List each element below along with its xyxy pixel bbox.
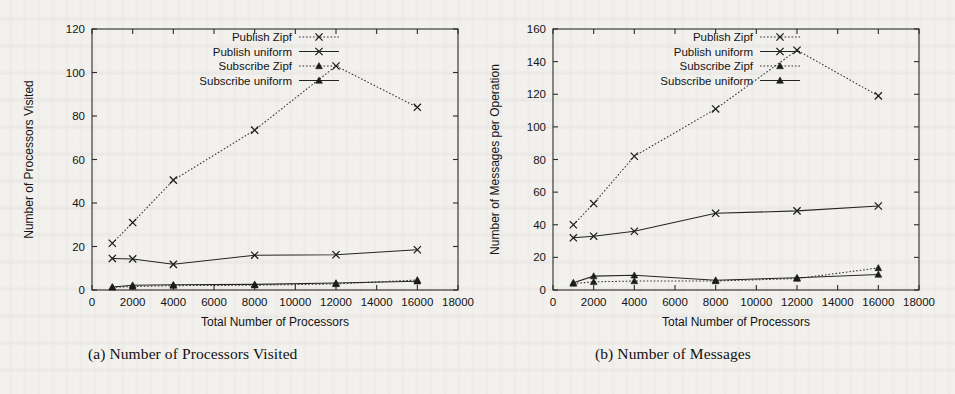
legend-label-publish-zipf: Publish Zipf <box>232 31 293 43</box>
x-tick-label: 0 <box>550 296 556 308</box>
legend-label-publish-zipf: Publish Zipf <box>693 31 754 43</box>
x-tick-label: 10000 <box>740 296 772 308</box>
x-tick-label: 14000 <box>361 296 393 308</box>
legend: Publish ZipfPublish uniformSubscribe Zip… <box>660 31 800 87</box>
x-axis-title: Total Number of Processors <box>662 315 810 329</box>
x-tick-label: 4000 <box>622 296 648 308</box>
legend-label-subscribe-uniform: Subscribe uniform <box>660 75 753 87</box>
legend-label-subscribe-zipf: Subscribe Zipf <box>218 60 292 72</box>
chart-a-svg: 0204060801001200200040006000800010000120… <box>0 0 478 345</box>
y-axis-title: Number of Messages per Operation <box>488 64 502 255</box>
y-tick-label: 60 <box>72 154 85 166</box>
y-tick-label: 60 <box>533 186 546 198</box>
y-tick-label: 20 <box>72 241 85 253</box>
legend: Publish ZipfPublish uniformSubscribe Zip… <box>199 31 339 87</box>
series-publish-uniform <box>570 202 882 241</box>
y-tick-label: 0 <box>79 284 85 296</box>
legend-label-subscribe-uniform: Subscribe uniform <box>199 75 292 87</box>
series-line <box>112 66 417 243</box>
chart-panel-a: 0204060801001200200040006000800010000120… <box>0 0 478 345</box>
y-tick-label: 0 <box>540 284 546 296</box>
x-tick-label: 6000 <box>201 296 227 308</box>
data-point-marker <box>170 177 177 184</box>
y-tick-label: 20 <box>533 251 546 263</box>
y-tick-label: 120 <box>527 88 546 100</box>
x-tick-label: 8000 <box>703 296 729 308</box>
data-point-marker <box>590 278 597 284</box>
series-line <box>112 250 417 265</box>
series-subscribe-uniform <box>109 278 421 290</box>
caption-b: (b) Number of Messages <box>595 345 751 363</box>
x-tick-label: 12000 <box>320 296 352 308</box>
data-point-marker <box>712 105 719 112</box>
x-tick-label: 4000 <box>161 296 187 308</box>
x-tick-label: 14000 <box>822 296 854 308</box>
y-tick-label: 40 <box>533 219 546 231</box>
data-point-marker <box>631 153 638 160</box>
x-tick-label: 2000 <box>120 296 146 308</box>
x-tick-label: 8000 <box>242 296 268 308</box>
y-tick-label: 140 <box>527 56 546 68</box>
data-point-marker <box>590 200 597 207</box>
figure-container: 0204060801001200200040006000800010000120… <box>0 0 955 394</box>
x-tick-label: 10000 <box>279 296 311 308</box>
data-point-marker <box>875 265 882 271</box>
x-tick-label: 18000 <box>442 296 474 308</box>
chart-panel-b: 0204060801001201401600200040006000800010… <box>477 0 955 345</box>
x-tick-label: 6000 <box>662 296 688 308</box>
y-tick-label: 100 <box>66 67 85 79</box>
caption-a: (a) Number of Processors Visited <box>88 345 297 363</box>
y-tick-label: 80 <box>72 110 85 122</box>
data-point-marker <box>875 92 882 99</box>
x-tick-label: 12000 <box>781 296 813 308</box>
data-point-marker <box>109 240 116 247</box>
data-point-marker <box>570 221 577 228</box>
chart-b-svg: 0204060801001201401600200040006000800010… <box>477 0 955 345</box>
x-tick-label: 16000 <box>862 296 894 308</box>
data-point-marker <box>251 127 258 134</box>
x-axis-title: Total Number of Processors <box>201 315 349 329</box>
legend-label-subscribe-zipf: Subscribe Zipf <box>679 60 753 72</box>
x-tick-label: 16000 <box>401 296 433 308</box>
series-subscribe-zipf <box>109 277 421 291</box>
series-line <box>573 206 878 238</box>
legend-label-publish-uniform: Publish uniform <box>674 46 753 58</box>
y-tick-label: 80 <box>533 154 546 166</box>
x-tick-label: 18000 <box>903 296 935 308</box>
data-point-marker <box>793 47 800 54</box>
y-tick-label: 40 <box>72 197 85 209</box>
y-axis-title: Number of Processors Visited <box>22 80 36 239</box>
y-tick-label: 120 <box>66 23 85 35</box>
x-tick-label: 2000 <box>581 296 607 308</box>
legend-label-publish-uniform: Publish uniform <box>213 46 292 58</box>
y-tick-label: 100 <box>527 121 546 133</box>
y-tick-label: 160 <box>527 23 546 35</box>
series-subscribe-uniform <box>570 271 882 285</box>
series-publish-zipf <box>109 62 421 246</box>
series-publish-uniform <box>109 246 421 268</box>
x-tick-label: 0 <box>89 296 95 308</box>
data-point-marker <box>414 104 421 111</box>
data-point-marker <box>129 219 136 226</box>
